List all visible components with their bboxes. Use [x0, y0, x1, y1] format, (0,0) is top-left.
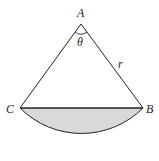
angle-arc [75, 32, 87, 34]
radius-ac [20, 24, 81, 108]
sector-diagram: A θ r C B [0, 0, 159, 161]
label-theta: θ [77, 35, 83, 49]
radius-ab [81, 24, 143, 108]
label-a: A [76, 6, 85, 20]
label-b: B [146, 102, 154, 116]
shaded-segment [20, 108, 143, 133]
label-r: r [118, 57, 123, 71]
label-c: C [6, 102, 15, 116]
